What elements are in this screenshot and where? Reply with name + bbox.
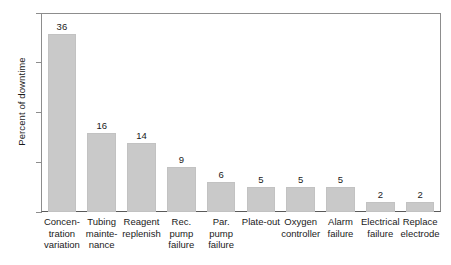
bar-value-label: 5 [281, 174, 321, 185]
x-axis-label-line: Plate-out [241, 216, 281, 228]
bar-item[interactable]: 14 [122, 14, 162, 212]
bar-value-label: 5 [241, 174, 281, 185]
bar-item[interactable]: 9 [161, 14, 201, 212]
x-axis-label-line: variation [42, 239, 82, 251]
bar-value-label: 16 [82, 120, 122, 131]
pareto-bar-chart: Percent of downtime 010203040 3616149655… [0, 0, 451, 265]
x-axis-label: Plate-out [241, 216, 281, 251]
x-axis-label-line: Replace [400, 216, 440, 228]
x-axis-label-line: Reagent [122, 216, 162, 228]
x-axis-label: Electricalfailure [360, 216, 400, 251]
bar-rect[interactable] [286, 187, 315, 212]
y-axis-title: Percent of downtime [16, 32, 27, 172]
bar-value-label: 6 [201, 169, 241, 180]
x-axis-label-line: failure [201, 239, 241, 251]
x-axis-label-line: Concen- [42, 216, 82, 228]
bar-rect[interactable] [48, 34, 77, 212]
x-axis-label-line: nance [82, 239, 122, 251]
bar-item[interactable]: 36 [42, 14, 82, 212]
x-axis-label-line: pump [201, 228, 241, 240]
bar-item[interactable]: 5 [281, 14, 321, 212]
x-axis-label-line: Electrical [360, 216, 400, 228]
bar-value-label: 5 [321, 174, 361, 185]
x-axis-label: Replaceelectrode [400, 216, 440, 251]
x-axis-label: Par.pumpfailure [201, 216, 241, 251]
x-axis-label-line: Alarm [321, 216, 361, 228]
bar-rect[interactable] [167, 167, 196, 212]
x-axis-label: Tubingmainte-nance [82, 216, 122, 251]
bar-item[interactable]: 16 [82, 14, 122, 212]
bar-rect[interactable] [87, 133, 116, 212]
bar-item[interactable]: 5 [321, 14, 361, 212]
x-axis-label-line: electrode [400, 228, 440, 240]
x-axis-label: Reagentreplenish [122, 216, 162, 251]
x-axis-label-line: tration [42, 228, 82, 240]
x-axis-label-line: failure [360, 228, 400, 240]
x-axis-label-line: mainte- [82, 228, 122, 240]
x-axis-label-line: Rec. [161, 216, 201, 228]
bar-rect[interactable] [366, 202, 395, 212]
bar-item[interactable]: 2 [360, 14, 400, 212]
bar-rect[interactable] [326, 187, 355, 212]
x-axis-label: Concen-trationvariation [42, 216, 82, 251]
x-axis-label-line: Par. [201, 216, 241, 228]
bar-rect[interactable] [247, 187, 276, 212]
x-axis-label: Oxygencontroller [281, 216, 321, 251]
x-axis-label-line: controller [281, 228, 321, 240]
bar-item[interactable]: 2 [400, 14, 440, 212]
bar-rect[interactable] [207, 182, 236, 212]
x-axis-label-line: Oxygen [281, 216, 321, 228]
bar-item[interactable]: 6 [201, 14, 241, 212]
bar-value-label: 2 [360, 189, 400, 200]
x-axis-label-line: Tubing [82, 216, 122, 228]
bar-rect[interactable] [406, 202, 435, 212]
bar-value-label: 36 [42, 21, 82, 32]
x-axis-label-line: failure [161, 239, 201, 251]
bar-item[interactable]: 5 [241, 14, 281, 212]
bar-value-label: 14 [122, 130, 162, 141]
bar-value-label: 2 [400, 189, 440, 200]
x-axis-labels: Concen-trationvariationTubingmainte-nanc… [42, 216, 440, 251]
x-axis-label-line: failure [321, 228, 361, 240]
bars-container: 3616149655522 [42, 14, 440, 212]
bar-rect[interactable] [127, 143, 156, 212]
bar-value-label: 9 [161, 154, 201, 165]
x-axis-label: Alarmfailure [321, 216, 361, 251]
x-axis-label-line: pump [161, 228, 201, 240]
x-axis-label: Rec.pumpfailure [161, 216, 201, 251]
x-axis-label-line: replenish [122, 228, 162, 240]
